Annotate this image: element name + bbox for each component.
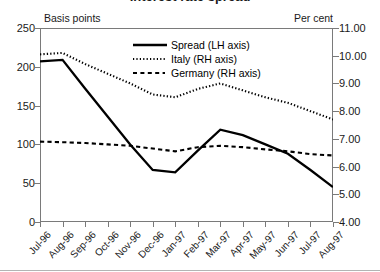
chart-title-clipped: Interest rate spread xyxy=(0,0,380,8)
chart-figure: Interest rate spread Basis points Per ce… xyxy=(0,0,380,272)
x-axis-tickmark xyxy=(40,222,41,227)
right-axis-tick: 11.00 xyxy=(339,22,366,34)
right-axis-tick: 5.00 xyxy=(339,188,360,200)
right-axis-unit-label: Per cent xyxy=(294,12,333,24)
legend-item-italy: Italy (RH axis) xyxy=(133,52,261,66)
left-axis-tick: 150 xyxy=(17,100,35,112)
legend-swatch-solid-line xyxy=(133,40,167,50)
x-axis-tickmark xyxy=(243,222,244,227)
left-axis-tick: 200 xyxy=(17,61,35,73)
x-axis-tickmark xyxy=(85,222,86,227)
right-axis-tickmark xyxy=(333,28,339,29)
chart-legend: Spread (LH axis) Italy (RH axis) Germany… xyxy=(133,38,261,80)
legend-item-germany: Germany (RH axis) xyxy=(133,66,261,80)
x-axis-tickmark xyxy=(288,222,289,227)
right-axis-tickmark xyxy=(333,167,339,168)
legend-item-spread: Spread (LH axis) xyxy=(133,38,261,52)
legend-swatch-dotted-line xyxy=(133,54,167,64)
left-axis-tick: 100 xyxy=(17,138,35,150)
x-axis-tickmark xyxy=(63,222,64,227)
right-axis-tick: 4.00 xyxy=(339,216,360,228)
right-axis-tickmark xyxy=(333,56,339,57)
right-axis-tick: 7.00 xyxy=(339,133,360,145)
legend-label-germany: Germany (RH axis) xyxy=(171,67,261,79)
right-axis-tickmark xyxy=(333,194,339,195)
x-axis-tick: Jun-97 xyxy=(272,229,301,259)
legend-swatch-dashed-line xyxy=(133,68,167,78)
x-axis-tickmark xyxy=(333,222,334,227)
legend-label-italy: Italy (RH axis) xyxy=(171,53,237,65)
left-axis-tick: 250 xyxy=(17,22,35,34)
x-axis-tickmark xyxy=(220,222,221,227)
x-axis-tickmark xyxy=(130,222,131,227)
right-axis-tickmark xyxy=(333,139,339,140)
right-axis-tick: 6.00 xyxy=(339,161,360,173)
x-axis-tickmark xyxy=(265,222,266,227)
page-title: Interest rate spread xyxy=(130,0,251,4)
right-axis-tick: 8.00 xyxy=(339,105,360,117)
x-axis-tickmark xyxy=(175,222,176,227)
x-axis-tickmark xyxy=(310,222,311,227)
right-axis-tickmark xyxy=(333,111,339,112)
x-axis-tickmark xyxy=(198,222,199,227)
footer-divider xyxy=(0,270,380,271)
x-axis-tickmark xyxy=(108,222,109,227)
right-axis-tick: 9.00 xyxy=(339,77,360,89)
left-axis-unit-label: Basis points xyxy=(44,12,101,24)
right-axis-tick: 10.00 xyxy=(339,50,367,62)
legend-label-spread: Spread (LH axis) xyxy=(171,39,250,51)
right-axis-tickmark xyxy=(333,83,339,84)
x-axis-tickmark xyxy=(153,222,154,227)
